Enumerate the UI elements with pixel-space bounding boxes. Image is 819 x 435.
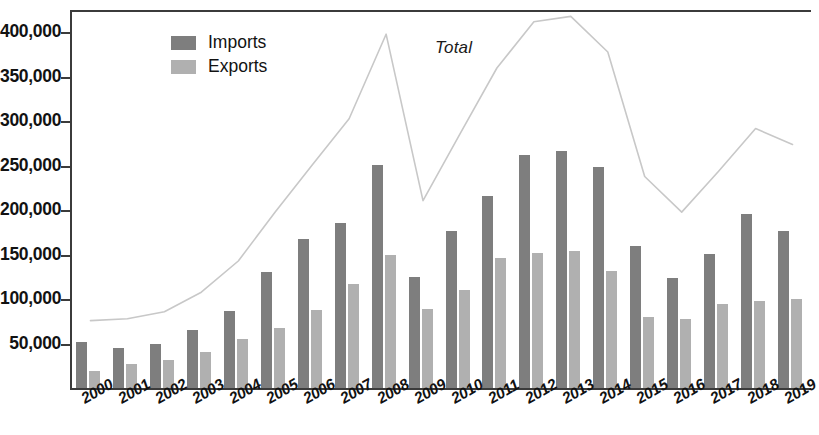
- bar-group-2009: [405, 10, 442, 388]
- plot-area: Total ImportsExports: [70, 10, 811, 390]
- bar-exports-2008: [385, 255, 396, 388]
- y-axis-tick-mark: [61, 210, 70, 212]
- bar-group-2000: [72, 10, 109, 388]
- legend-item-imports: Imports: [171, 32, 267, 54]
- bar-group-2011: [478, 10, 515, 388]
- bar-imports-2010: [446, 231, 457, 388]
- bar-group-2015: [626, 10, 663, 388]
- bar-exports-2009: [422, 309, 433, 388]
- bar-group-2018: [737, 10, 774, 388]
- bar-imports-2019: [778, 231, 789, 388]
- bar-exports-2013: [569, 251, 580, 388]
- legend-label-imports: Imports: [208, 34, 266, 52]
- bar-imports-2000: [76, 342, 87, 388]
- legend-swatch-imports: [171, 36, 196, 50]
- y-axis-tick-mark: [61, 255, 70, 257]
- bar-exports-2014: [606, 271, 617, 388]
- y-axis-tick-mark: [61, 344, 70, 346]
- bar-imports-2014: [593, 167, 604, 388]
- bar-imports-2016: [667, 278, 678, 388]
- bar-group-2001: [109, 10, 146, 388]
- y-axis-tick-label: 200,000: [0, 201, 61, 219]
- bar-exports-2007: [348, 284, 359, 388]
- y-axis-tick-mark: [61, 166, 70, 168]
- bar-imports-2017: [704, 254, 715, 388]
- bar-exports-2016: [680, 319, 691, 388]
- y-axis-tick-mark: [61, 32, 70, 34]
- total-line-annotation-label: Total: [435, 38, 472, 58]
- bar-group-2017: [700, 10, 737, 388]
- bar-imports-2007: [335, 223, 346, 388]
- bar-group-2008: [368, 10, 405, 388]
- bar-exports-2018: [754, 301, 765, 388]
- bar-group-2006: [294, 10, 331, 388]
- bar-imports-2013: [556, 151, 567, 388]
- bar-imports-2005: [261, 272, 272, 389]
- bar-exports-2015: [643, 317, 654, 388]
- y-axis-tick-label: 400,000: [0, 23, 61, 41]
- bar-imports-2011: [482, 196, 493, 388]
- y-axis-tick-mark: [61, 121, 70, 123]
- y-axis-tick-label: 100,000: [0, 290, 61, 308]
- y-axis-tick-label: 350,000: [0, 68, 61, 86]
- legend-label-exports: Exports: [208, 58, 267, 76]
- bar-imports-2009: [409, 277, 420, 388]
- y-axis-tick-label: 300,000: [0, 112, 61, 130]
- bar-group-2013: [552, 10, 589, 388]
- bar-imports-2002: [150, 344, 161, 388]
- legend-item-exports: Exports: [171, 56, 267, 78]
- bar-exports-2019: [791, 299, 802, 388]
- y-axis-tick-label: 150,000: [0, 246, 61, 264]
- bar-imports-2018: [741, 214, 752, 388]
- bar-exports-2006: [311, 310, 322, 388]
- bar-imports-2006: [298, 239, 309, 388]
- chart-legend: ImportsExports: [171, 32, 267, 80]
- bar-group-2007: [331, 10, 368, 388]
- bar-imports-2008: [372, 165, 383, 388]
- bar-group-2019: [774, 10, 811, 388]
- bar-group-2012: [515, 10, 552, 388]
- y-axis-tick-mark: [61, 77, 70, 79]
- bar-imports-2003: [187, 330, 198, 388]
- bar-exports-2017: [717, 304, 728, 388]
- bar-imports-2015: [630, 246, 641, 388]
- y-axis-tick-mark: [61, 299, 70, 301]
- bar-group-2010: [442, 10, 479, 388]
- x-axis-labels: 2000200120022003200420052006200720082009…: [70, 392, 811, 435]
- bar-exports-2010: [459, 290, 470, 388]
- bar-imports-2004: [224, 311, 235, 388]
- y-axis-labels: 400,000350,000300,000250,000200,000150,0…: [0, 0, 61, 435]
- bar-exports-2012: [532, 253, 543, 388]
- y-axis-tick-label: 250,000: [0, 157, 61, 175]
- bar-imports-2012: [519, 155, 530, 388]
- legend-swatch-exports: [171, 60, 196, 74]
- bar-group-2014: [589, 10, 626, 388]
- bar-group-2016: [663, 10, 700, 388]
- bar-imports-2001: [113, 348, 124, 388]
- y-axis-tick-label: 50,000: [0, 335, 61, 353]
- bar-exports-2011: [495, 258, 506, 388]
